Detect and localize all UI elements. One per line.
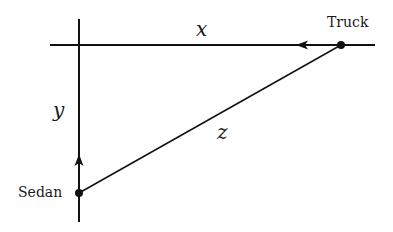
truck-label: Truck bbox=[327, 14, 369, 30]
x-label: x bbox=[196, 17, 207, 41]
related-rates-diagram: Truck Sedan x y z bbox=[0, 0, 393, 232]
sedan-dot bbox=[75, 189, 83, 197]
hypotenuse-line bbox=[79, 45, 341, 193]
truck-dot bbox=[337, 41, 345, 49]
y-label: y bbox=[52, 98, 65, 122]
z-label: z bbox=[216, 120, 228, 144]
sedan-label: Sedan bbox=[18, 184, 62, 200]
